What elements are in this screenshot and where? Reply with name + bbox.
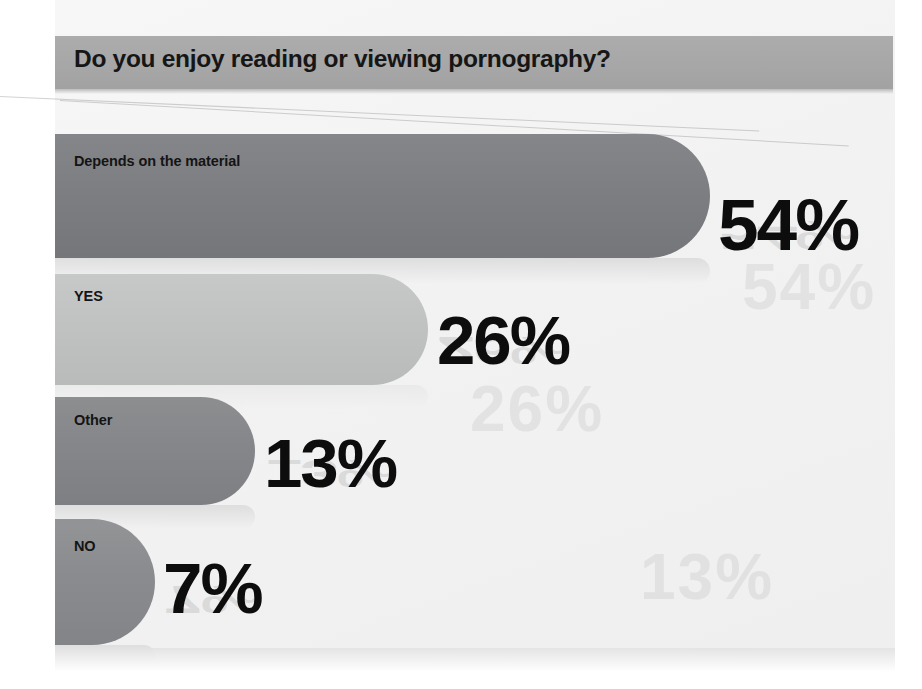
- bar-label: Other: [74, 412, 112, 428]
- bar-fill: [55, 519, 155, 645]
- bar-label: YES: [74, 288, 103, 304]
- chart-image: 54% 26% 13% Do you enjoy reading or view…: [0, 0, 922, 689]
- ghost-artifact-text: 13%: [640, 540, 774, 614]
- chart-title: Do you enjoy reading or viewing pornogra…: [74, 45, 611, 73]
- bar-value-label: 54%: [718, 183, 858, 266]
- chart-title-band-shadow: [55, 89, 893, 94]
- bar-label: NO: [74, 538, 96, 554]
- bar-value-label: 26%: [437, 301, 569, 380]
- bar-fill: [55, 274, 428, 385]
- bar-value-label: 7%: [163, 548, 262, 629]
- bar-yes: YES: [55, 274, 428, 385]
- bar-no: NO: [55, 519, 155, 645]
- bar-other: Other: [55, 397, 255, 505]
- page-bottom-edge: [55, 648, 895, 672]
- ghost-artifact-text: 26%: [470, 372, 604, 446]
- bar-depends-on-the-material: Depends on the material: [55, 134, 710, 258]
- bar-value-label: 13%: [264, 424, 396, 503]
- bar-label: Depends on the material: [74, 153, 240, 169]
